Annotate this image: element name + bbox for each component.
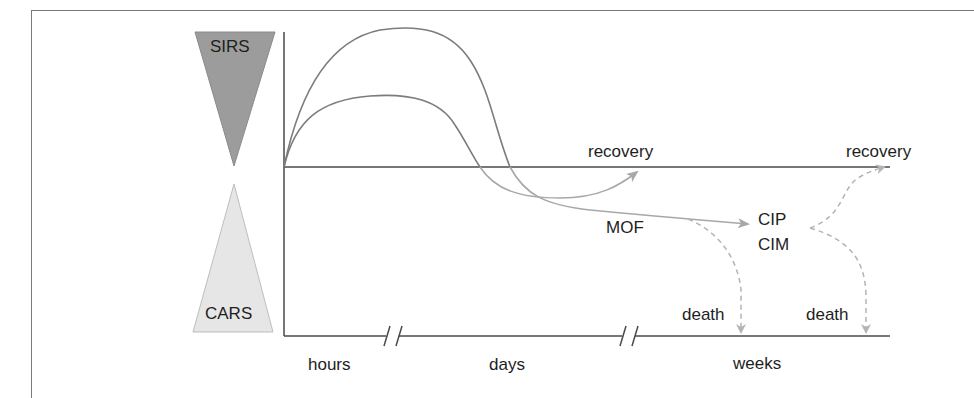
cars-label: CARS bbox=[205, 305, 252, 322]
late-recovery-arrow bbox=[810, 167, 884, 228]
cip-label: CIP bbox=[758, 211, 786, 228]
death-label-2: death bbox=[806, 306, 849, 323]
time-label-days: days bbox=[489, 356, 525, 373]
time-label-hours: hours bbox=[308, 356, 351, 373]
death-label-1: death bbox=[682, 306, 725, 323]
mof-label: MOF bbox=[606, 219, 644, 236]
cim-label: CIM bbox=[758, 236, 789, 253]
small-response-curve bbox=[284, 95, 480, 167]
recovery-late-label: recovery bbox=[846, 143, 911, 160]
diagram-canvas bbox=[0, 0, 974, 398]
mof-arrow bbox=[510, 167, 748, 224]
time-label-weeks: weeks bbox=[733, 355, 781, 372]
recovery-early-label: recovery bbox=[588, 143, 653, 160]
large-response-curve bbox=[284, 28, 510, 167]
time-axis bbox=[284, 326, 890, 346]
early-recovery-arrow bbox=[480, 167, 637, 198]
sirs-label: SIRS bbox=[210, 38, 250, 55]
